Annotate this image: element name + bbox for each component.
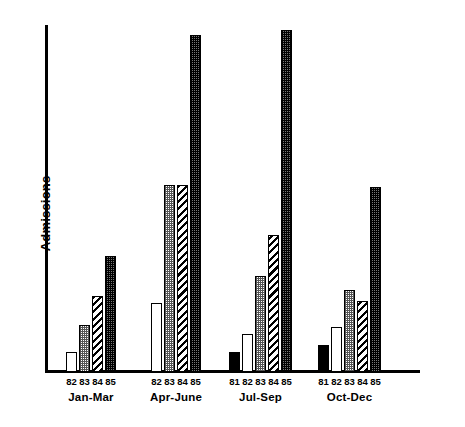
bar-chart: Admissions 82838485Jan-Mar82838485Apr-Ju… — [0, 0, 465, 427]
x-group-label-oct-dec: Oct-Dec — [327, 391, 373, 403]
bar-apr-june-82 — [151, 303, 162, 372]
bar-jan-mar-83 — [79, 325, 90, 372]
bar-apr-june-85 — [190, 35, 201, 372]
bar-jan-mar-82 — [66, 352, 77, 372]
x-group-label-jan-mar: Jan-Mar — [68, 391, 114, 403]
x-tick-label: 84 — [177, 376, 188, 387]
x-tick-label: 85 — [370, 376, 381, 387]
bar-jul-sep-83 — [255, 276, 266, 372]
bar-jul-sep-84 — [268, 235, 279, 372]
bar-oct-dec-82 — [331, 327, 342, 372]
x-tick-label: 85 — [281, 376, 292, 387]
bar-apr-june-84 — [177, 185, 188, 372]
x-tick-label: 85 — [105, 376, 116, 387]
x-tick-label: 82 — [242, 376, 253, 387]
plot-area — [0, 0, 465, 427]
bar-oct-dec-83 — [344, 290, 355, 372]
bar-oct-dec-81 — [318, 345, 329, 372]
x-tick-label: 82 — [66, 376, 77, 387]
bar-jan-mar-84 — [92, 296, 103, 372]
x-tick-label: 84 — [268, 376, 279, 387]
x-tick-label: 81 — [318, 376, 329, 387]
x-tick-label: 82 — [331, 376, 342, 387]
bar-oct-dec-84 — [357, 301, 368, 372]
x-tick-label: 83 — [164, 376, 175, 387]
bar-jul-sep-81 — [229, 352, 240, 372]
bar-apr-june-83 — [164, 185, 175, 372]
x-tick-label: 83 — [344, 376, 355, 387]
x-group-label-apr-june: Apr-June — [150, 391, 202, 403]
x-tick-label: 84 — [92, 376, 103, 387]
bar-jul-sep-85 — [281, 30, 292, 372]
bar-jul-sep-82 — [242, 334, 253, 372]
bar-oct-dec-85 — [370, 187, 381, 372]
x-group-label-jul-sep: Jul-Sep — [239, 391, 282, 403]
x-tick-label: 84 — [357, 376, 368, 387]
bar-jan-mar-85 — [105, 256, 116, 372]
x-tick-label: 83 — [79, 376, 90, 387]
x-tick-label: 82 — [151, 376, 162, 387]
x-tick-label: 85 — [190, 376, 201, 387]
x-tick-label: 83 — [255, 376, 266, 387]
x-tick-label: 81 — [229, 376, 240, 387]
